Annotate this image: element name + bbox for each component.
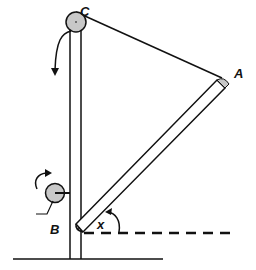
pulley-c-axle [75, 21, 77, 23]
angle-arc [108, 212, 119, 232]
arrowhead-c-icon [51, 68, 59, 76]
label-a: A [233, 66, 243, 81]
motor-lead-line [36, 201, 53, 214]
label-x: x [96, 217, 105, 232]
label-b: B [50, 222, 59, 237]
rod-ab [76, 80, 225, 232]
label-c: C [80, 4, 90, 19]
arrowhead-motor-icon [45, 169, 52, 177]
rotation-arrow-motor-icon [36, 173, 46, 189]
cable [76, 12, 222, 78]
rotation-arrow-c-icon [55, 31, 71, 70]
pivot-b-dot [78, 227, 80, 229]
pulley-rod-diagram: C A B x [0, 0, 256, 270]
